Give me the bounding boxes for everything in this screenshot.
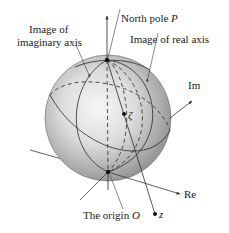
north-pole-point [105, 58, 109, 62]
imaginary-axis-label-line1: Image of [29, 23, 69, 35]
im-axis [170, 101, 192, 118]
origin-label: The origin O [83, 209, 140, 221]
origin-point [106, 170, 110, 174]
leader-north-pole [108, 9, 120, 58]
north-pole-symbol: P [170, 12, 178, 24]
origin-text: The origin [83, 209, 132, 221]
north-pole-label: North pole P [121, 12, 178, 24]
re-axis-label: Re [184, 188, 196, 200]
zeta-point [122, 112, 126, 116]
im-axis-label: Im [188, 79, 201, 91]
origin-symbol: O [132, 209, 140, 221]
re-axis [108, 172, 180, 194]
z-point [153, 212, 157, 216]
real-axis-image-label: Image of real axis [130, 33, 209, 45]
z-label: z [158, 208, 164, 220]
sphere [45, 55, 171, 181]
riemann-sphere-diagram: Image of imaginary axis North pole P Ima… [0, 0, 229, 233]
imaginary-axis-label-line2: imaginary axis [17, 36, 82, 48]
north-pole-text: North pole [121, 12, 171, 24]
